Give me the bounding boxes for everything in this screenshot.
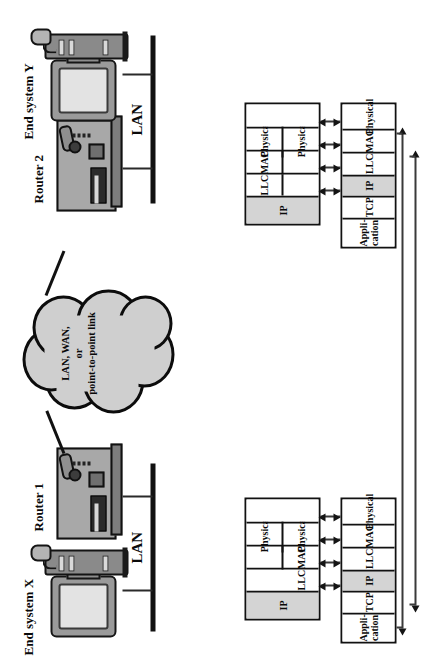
router-2-spacer: [246, 104, 318, 126]
arrowhead-down: [333, 118, 340, 126]
layer-label: IP: [277, 205, 288, 215]
tower-base: [122, 547, 127, 577]
layer-application-x: Appli- cation: [342, 612, 394, 641]
lan-bar-right: [150, 35, 155, 203]
tower-icon: [44, 549, 128, 575]
router-icon-router-1: [56, 451, 122, 539]
router-port: [88, 471, 104, 487]
router-1-layer-ip: IP: [246, 590, 318, 618]
figure-page: End system X LAN Router 1: [0, 0, 422, 665]
network-topology: End system X LAN Router 1: [0, 0, 208, 665]
layer-tcp-x: TCP: [342, 590, 394, 612]
application-peer-stub-left: [396, 626, 402, 628]
layer-label: LLC: [295, 569, 306, 590]
router-knob: [68, 140, 81, 153]
label-end-system-x: End system X: [20, 578, 36, 655]
router-led-icons: [72, 133, 90, 137]
layer-label: TCP: [363, 197, 374, 217]
label-router-2: Router 2: [30, 154, 46, 203]
mouse-icon: [30, 544, 51, 561]
arrowhead-up: [318, 559, 325, 567]
arrowhead-down: [333, 582, 340, 590]
layer-label: LLC: [258, 174, 269, 195]
rotated-figure-canvas: End system X LAN Router 1: [0, 0, 422, 665]
router-front-slot: [94, 503, 98, 531]
arrowhead-up: [318, 141, 325, 149]
tcp-peer-stub-left: [409, 603, 415, 605]
arrowhead-left: [411, 605, 419, 612]
arrowhead-down: [333, 164, 340, 172]
router-2-layer-ip: IP: [246, 195, 318, 223]
router-1-layer-llc: LLC: [283, 569, 318, 590]
drive-slot: [58, 555, 64, 571]
drive-slot: [102, 39, 108, 55]
router-led-icons: [72, 461, 90, 465]
layer-ip-x: IP: [342, 569, 394, 590]
layer-label: LLC: [363, 548, 374, 569]
label-end-system-y: End system Y: [20, 63, 36, 139]
layer-label-line2: cation: [368, 614, 379, 640]
label-router-1: Router 1: [30, 482, 46, 531]
layer-label: IP: [363, 575, 374, 585]
layer-ip-y: IP: [342, 174, 394, 195]
drop-line-end-system-x: [122, 589, 152, 591]
application-peer-arrow: [401, 133, 403, 628]
stack-end-system-y: Appli- cation TCP IP LLC MAC Physical: [340, 102, 396, 248]
layer-llc-x: LLC: [342, 546, 394, 569]
drive-slot: [68, 39, 74, 55]
arrowhead-up: [318, 582, 325, 590]
router-knob: [68, 468, 81, 481]
tcp-peer-stub-right: [409, 155, 415, 157]
arrowhead-up: [318, 164, 325, 172]
stack-router-1: IP LLC MAC Physical Physical: [244, 497, 320, 620]
protocol-stack-diagram: Appli- cation TCP IP LLC MAC Physical: [208, 0, 422, 665]
monitor-icon: [50, 575, 116, 637]
layer-label: IP: [277, 600, 288, 610]
arrowhead-up: [318, 118, 325, 126]
layer-physical-y: Physical: [342, 104, 394, 128]
cloud-label-line-2: or: [71, 293, 84, 413]
cloud-label-line-1: LAN, WAN,: [58, 293, 71, 413]
router-icon-router-2: [56, 123, 122, 211]
router-1-spacer: [246, 499, 318, 521]
layer-llc-y: LLC: [342, 151, 394, 174]
drop-line-router-1: [122, 495, 152, 497]
workstation-icon-end-system-y: [44, 29, 124, 121]
layer-application-y: Appli- cation: [342, 217, 394, 246]
drop-line-router-2: [122, 167, 152, 169]
layer-label-line1: Appli-: [357, 219, 368, 246]
drop-line-end-system-y: [122, 73, 152, 75]
arrowhead-down: [333, 559, 340, 567]
stack-end-system-x: Appli- cation TCP IP LLC MAC Physical: [340, 497, 396, 643]
router-front-slot: [94, 175, 98, 203]
layer-label-line2: cation: [368, 219, 379, 245]
layer-label: TCP: [363, 592, 374, 612]
router-2-layer-llc: LLC: [246, 174, 283, 195]
tower-icon: [44, 33, 128, 59]
monitor-screen: [58, 583, 108, 629]
layer-label-line1: Appli-: [357, 614, 368, 641]
layer-label: Physical: [363, 98, 374, 134]
arrowhead-up: [318, 513, 325, 521]
arrowhead-down: [333, 536, 340, 544]
router-2-physical-column: Physical Physical: [246, 126, 318, 149]
arrowhead-down: [333, 513, 340, 521]
router-port: [88, 143, 104, 159]
label-lan-right: LAN: [128, 103, 145, 135]
tower-base: [122, 31, 127, 61]
link-router-1-to-cloud: [45, 410, 65, 454]
router-base: [110, 443, 122, 535]
router-1-physical-far-column: Physical Physical: [246, 521, 318, 544]
arrowhead-down: [333, 141, 340, 149]
layer-tcp-y: TCP: [342, 195, 394, 217]
router-2-llc-column: LLC: [246, 172, 318, 195]
link-cloud-to-router-2: [44, 250, 65, 296]
mouse-icon: [30, 28, 51, 45]
layer-physical-x: Physical: [342, 499, 394, 523]
workstation-icon-end-system-x: [44, 545, 124, 637]
cloud-label: LAN, WAN, or point-to-point link: [58, 293, 97, 413]
cloud-label-line-3: point-to-point link: [84, 293, 97, 413]
router-1-llc-column: LLC: [246, 567, 318, 590]
layer-label: Physical: [363, 493, 374, 529]
lan-bar-left: [150, 463, 155, 631]
